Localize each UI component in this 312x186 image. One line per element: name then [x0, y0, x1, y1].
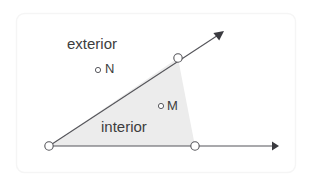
- point-m-marker: [158, 103, 163, 108]
- point-n-marker: [95, 67, 100, 72]
- ray-horizontal-point-marker: [191, 142, 199, 150]
- label-point-m: M: [167, 99, 178, 112]
- label-exterior: exterior: [67, 36, 117, 51]
- figure-card: exterior interior N M: [0, 0, 312, 186]
- label-interior: interior: [101, 119, 147, 134]
- vertex-point-marker: [45, 142, 53, 150]
- angle-diagram: [0, 0, 312, 186]
- ray-upper-point-marker: [174, 54, 182, 62]
- label-point-n: N: [105, 62, 114, 75]
